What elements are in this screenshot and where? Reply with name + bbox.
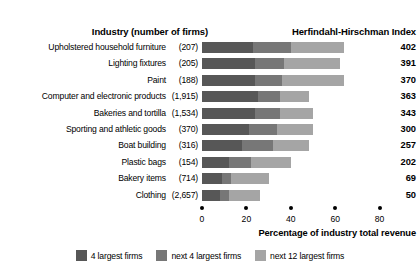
legend-swatch-next-4	[156, 250, 167, 261]
row-hhi-value: 363	[400, 91, 416, 101]
bar-segment-next-12	[280, 108, 313, 119]
row-hhi-value: 50	[406, 190, 416, 200]
row-industry-label: Bakeries and tortilla	[0, 108, 166, 118]
row-hhi-value: 300	[400, 124, 416, 134]
bar-segment-next-4	[242, 140, 273, 151]
row-industry-label: Plastic bags	[0, 157, 166, 167]
row-firm-count: (154)	[168, 157, 198, 167]
bar-segment-next-12	[251, 157, 291, 168]
bar-segment-next-4	[258, 91, 280, 102]
legend-swatch-4-largest	[76, 250, 87, 261]
row-industry-label: Bakery items	[0, 173, 166, 183]
legend-label: next 12 largest firms	[270, 251, 344, 261]
bar-segment-4-largest	[202, 190, 220, 201]
bar-segment-next-12	[291, 42, 344, 53]
chart-row: Computer and electronic products(1,915)3…	[0, 90, 420, 106]
bar-segment-next-4	[229, 157, 251, 168]
row-hhi-value: 370	[400, 75, 416, 85]
chart-rows: Upholstered household furniture(207)402L…	[0, 41, 420, 205]
axis-tick-label: 40	[286, 214, 296, 224]
row-hhi-value: 69	[406, 173, 416, 183]
bar-segment-next-12	[277, 124, 313, 135]
bar-segment-next-4	[220, 190, 229, 201]
bar-segment-4-largest	[202, 58, 255, 69]
legend-item[interactable]: next 12 largest firms	[255, 250, 344, 261]
row-firm-count: (188)	[168, 75, 198, 85]
legend-item[interactable]: next 4 largest firms	[156, 250, 241, 261]
axis-tick-label: 0	[200, 214, 205, 224]
industry-column-header: Industry (number of firms)	[0, 26, 208, 37]
row-industry-label: Upholstered household furniture	[0, 42, 166, 52]
row-industry-label: Sporting and athletic goods	[0, 124, 166, 134]
x-axis: 020406080	[0, 206, 420, 230]
bar-segment-next-12	[229, 190, 260, 201]
legend-label: next 4 largest firms	[171, 251, 241, 261]
column-headers: Industry (number of firms) Herfindahl-Hi…	[0, 26, 420, 40]
stacked-bar	[202, 108, 313, 119]
axis-tick-label: 60	[330, 214, 340, 224]
bar-segment-next-4	[222, 173, 231, 184]
chart-row: Upholstered household furniture(207)402	[0, 41, 420, 57]
row-firm-count: (1,915)	[168, 91, 198, 101]
hhi-column-header: Herfindahl-Hirschman Index	[292, 26, 416, 37]
chart-row: Bakeries and tortilla(1,534)343	[0, 107, 420, 123]
x-axis-title: Percentage of industry total revenue	[258, 228, 416, 238]
stacked-bar	[202, 58, 340, 69]
bar-segment-next-4	[255, 75, 282, 86]
chart-row: Boat building(316)257	[0, 139, 420, 155]
bar-segment-next-12	[284, 58, 340, 69]
row-industry-label: Computer and electronic products	[0, 91, 166, 101]
row-hhi-value: 402	[400, 42, 416, 52]
axis-tick-dot	[333, 206, 337, 210]
bar-segment-next-4	[255, 108, 279, 119]
row-hhi-value: 343	[400, 108, 416, 118]
chart-container: Industry (number of firms) Herfindahl-Hi…	[0, 0, 420, 277]
row-industry-label: Boat building	[0, 140, 166, 150]
chart-row: Plastic bags(154)202	[0, 156, 420, 172]
row-hhi-value: 202	[400, 157, 416, 167]
stacked-bar	[202, 173, 269, 184]
chart-legend: 4 largest firmsnext 4 largest firmsnext …	[0, 250, 420, 261]
axis-tick-dot	[378, 206, 382, 210]
axis-tick-dot	[200, 206, 204, 210]
bar-segment-4-largest	[202, 42, 253, 53]
stacked-bar	[202, 190, 260, 201]
stacked-bar	[202, 157, 291, 168]
stacked-bar	[202, 140, 309, 151]
legend-item[interactable]: 4 largest firms	[76, 250, 143, 261]
chart-row: Lighting fixtures(205)391	[0, 57, 420, 73]
bar-segment-next-12	[280, 91, 309, 102]
chart-row: Clothing(2,657)50	[0, 189, 420, 205]
axis-tick-dot	[244, 206, 248, 210]
row-industry-label: Lighting fixtures	[0, 58, 166, 68]
bar-segment-next-4	[253, 42, 291, 53]
row-firm-count: (205)	[168, 58, 198, 68]
stacked-bar	[202, 124, 313, 135]
stacked-bar	[202, 75, 344, 86]
chart-row: Paint(188)370	[0, 74, 420, 90]
row-firm-count: (714)	[168, 173, 198, 183]
row-firm-count: (316)	[168, 140, 198, 150]
row-industry-label: Clothing	[0, 190, 166, 200]
axis-tick-label: 80	[375, 214, 385, 224]
row-firm-count: (207)	[168, 42, 198, 52]
bar-segment-4-largest	[202, 91, 258, 102]
bar-segment-4-largest	[202, 124, 249, 135]
axis-tick-dot	[289, 206, 293, 210]
bar-segment-next-12	[273, 140, 309, 151]
chart-row: Bakery items(714)69	[0, 172, 420, 188]
row-firm-count: (370)	[168, 124, 198, 134]
bar-segment-4-largest	[202, 108, 255, 119]
row-firm-count: (1,534)	[168, 108, 198, 118]
bar-segment-4-largest	[202, 75, 255, 86]
bar-segment-next-4	[249, 124, 278, 135]
legend-label: 4 largest firms	[91, 251, 143, 261]
bar-segment-4-largest	[202, 173, 222, 184]
bar-segment-next-12	[231, 173, 269, 184]
chart-row: Sporting and athletic goods(370)300	[0, 123, 420, 139]
axis-tick-label: 20	[242, 214, 252, 224]
bar-segment-4-largest	[202, 140, 242, 151]
row-firm-count: (2,657)	[168, 190, 198, 200]
legend-swatch-next-12	[255, 250, 266, 261]
stacked-bar	[202, 42, 344, 53]
